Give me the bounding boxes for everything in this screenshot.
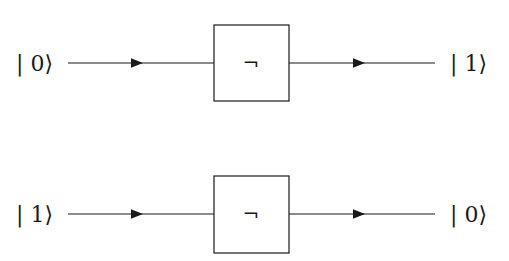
output-state-label: | 0⟩	[450, 202, 487, 228]
not-gate-diagram: | 0⟩ ¬ | 1⟩ | 1⟩ ¬ | 0⟩	[0, 0, 509, 261]
not-gate-symbol: ¬	[243, 202, 260, 226]
circuit-row-1: | 0⟩ ¬ | 1⟩	[16, 25, 487, 101]
input-state-label: | 0⟩	[16, 51, 53, 77]
output-state-label: | 1⟩	[450, 51, 487, 77]
input-state-label: | 1⟩	[16, 202, 53, 228]
circuit-row-2: | 1⟩ ¬ | 0⟩	[16, 176, 487, 253]
not-gate-symbol: ¬	[243, 51, 260, 75]
